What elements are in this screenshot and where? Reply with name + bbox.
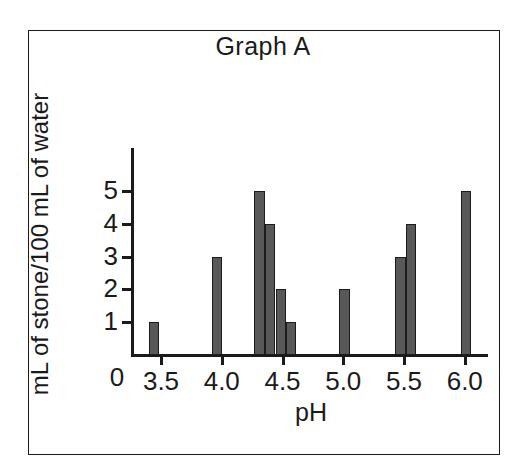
bar	[254, 191, 264, 355]
x-axis-line	[131, 354, 488, 357]
x-tick-3.5	[160, 354, 163, 365]
x-tick-5.5	[403, 354, 406, 365]
bar	[339, 289, 349, 355]
y-tick-label-wrap: 5	[90, 177, 118, 203]
x-tick-4.0	[221, 354, 224, 365]
x-tick-5.0	[342, 354, 345, 365]
y-tick-label: 1	[94, 308, 118, 334]
y-tick-label-wrap: 2	[90, 275, 118, 301]
y-tick-2	[122, 288, 132, 291]
bar	[286, 322, 296, 355]
y-tick-label-wrap: 4	[90, 210, 118, 236]
bar	[461, 191, 471, 355]
y-tick-3	[122, 256, 132, 259]
y-tick-label: 5	[94, 177, 118, 203]
figure-root: Graph A mL of stone/100 mL of water pH 0…	[0, 0, 526, 472]
y-tick-label: 2	[94, 275, 118, 301]
x-tick-label: 5.5	[369, 367, 439, 395]
plot-area: 0 12345 3.54.04.55.05.56.0	[0, 0, 526, 472]
bar	[406, 224, 416, 355]
y-tick-label: 3	[94, 243, 118, 269]
x-tick-6.0	[464, 354, 467, 365]
bar	[212, 257, 222, 355]
x-tick-4.5	[282, 354, 285, 365]
y-axis-line	[131, 148, 134, 357]
y-tick-1	[122, 321, 132, 324]
y-tick-4	[122, 223, 132, 226]
x-tick-label: 3.5	[126, 367, 196, 395]
y-tick-label-wrap: 1	[90, 308, 118, 334]
x-tick-label: 5.0	[308, 367, 378, 395]
bar	[265, 224, 275, 355]
bar	[149, 322, 159, 355]
x-tick-label: 4.0	[187, 367, 257, 395]
x-tick-label: 4.5	[248, 367, 318, 395]
bar	[395, 257, 405, 355]
y-tick-label-wrap: 3	[90, 243, 118, 269]
y-tick-label: 4	[94, 210, 118, 236]
x-tick-label: 6.0	[430, 367, 500, 395]
y-tick-5	[122, 190, 132, 193]
